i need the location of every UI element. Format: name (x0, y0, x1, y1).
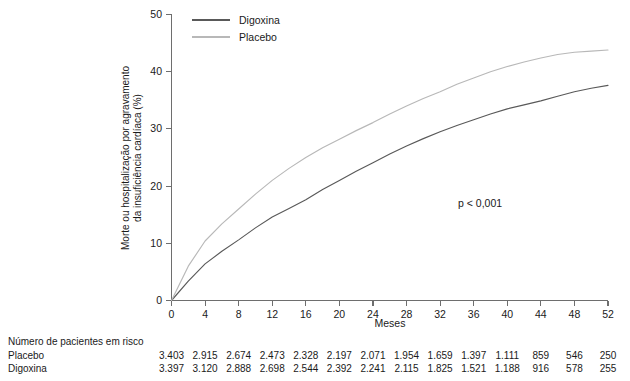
risk-table-cell: 1.397 (461, 350, 486, 361)
x-tick-label: 36 (468, 308, 480, 320)
x-axis-title: Meses (375, 317, 406, 329)
x-tick-label: 16 (300, 308, 312, 320)
risk-table-cell: 2.473 (260, 350, 285, 361)
risk-table-row: 3.4032.9152.6742.4732.3282.1972.0711.954… (159, 350, 617, 361)
legend-label-placebo: Placebo (239, 31, 277, 43)
series-line-digoxina (172, 85, 609, 300)
y-tick-label: 20 (150, 180, 162, 192)
y-tick-label: 0 (156, 294, 162, 306)
kaplan-meier-chart: 0 10 20 30 40 50 04812162024283236404448… (0, 0, 630, 381)
risk-table-cell: 3.403 (159, 350, 184, 361)
risk-table-cell: 916 (533, 363, 550, 374)
risk-table-cell: 2.544 (293, 363, 318, 374)
y-tick-label: 50 (150, 8, 162, 20)
chart-legend: Digoxina Placebo (192, 14, 280, 43)
x-tick-label: 12 (266, 308, 278, 320)
risk-table-cell: 2.115 (394, 363, 419, 374)
risk-table-cell: 2.888 (226, 363, 251, 374)
risk-table-cell: 1.825 (428, 363, 453, 374)
risk-table-row-label-placebo: Placebo (8, 350, 45, 361)
risk-table-cell: 2.674 (226, 350, 251, 361)
risk-table-cell: 2.698 (260, 363, 285, 374)
x-tick-label: 40 (501, 308, 513, 320)
risk-table-cell: 3.120 (193, 363, 218, 374)
x-tick-label: 52 (602, 308, 614, 320)
y-axis-tick-labels: 0 10 20 30 40 50 (150, 8, 162, 306)
p-value-annotation: p < 0,001 (458, 197, 502, 209)
y-tick-label: 40 (150, 65, 162, 77)
x-tick-label: 44 (535, 308, 547, 320)
risk-table-cell: 3.397 (159, 363, 184, 374)
legend-label-digoxina: Digoxina (239, 14, 280, 26)
risk-table-cell: 2.241 (360, 363, 385, 374)
y-axis-title: Morte ou hospitalização por agravamento … (120, 66, 143, 250)
risk-table-cell: 2.328 (293, 350, 318, 361)
x-tick-label: 0 (169, 308, 175, 320)
x-tick-label: 48 (569, 308, 581, 320)
y-axis-ticks (166, 15, 172, 301)
risk-table-row-label-digoxina: Digoxina (8, 363, 47, 374)
risk-table-cell: 250 (600, 350, 617, 361)
risk-table-cell: 1.954 (394, 350, 419, 361)
series-line-placebo (172, 50, 609, 301)
risk-table-row: 3.3973.1202.8882.6982.5442.3922.2412.115… (159, 363, 617, 374)
risk-table-cell: 1.659 (428, 350, 453, 361)
y-tick-label: 10 (150, 237, 162, 249)
y-axis-title-line1: Morte ou hospitalização por agravamento (120, 66, 131, 250)
risk-table-cell: 1.521 (461, 363, 486, 374)
risk-table-cell: 2.071 (360, 350, 385, 361)
risk-table-cell: 578 (566, 363, 583, 374)
risk-table-cell: 2.915 (193, 350, 218, 361)
risk-table-cell: 1.188 (495, 363, 520, 374)
x-tick-label: 32 (434, 308, 446, 320)
figure-container: 0 10 20 30 40 50 04812162024283236404448… (0, 0, 630, 381)
risk-table-cell: 2.197 (327, 350, 352, 361)
y-axis-title-line2: da insuficiência cardíaca (%) (132, 94, 143, 222)
risk-table-cell: 1.111 (495, 350, 519, 361)
risk-table-title: Número de pacientes em risco (8, 336, 144, 347)
y-tick-label: 30 (150, 122, 162, 134)
x-tick-label: 8 (236, 308, 242, 320)
x-tick-label: 20 (334, 308, 346, 320)
x-tick-label: 4 (202, 308, 208, 320)
risk-table-cell: 546 (566, 350, 583, 361)
x-axis-ticks (172, 301, 609, 307)
series-group (172, 50, 609, 301)
risk-table-cell: 2.392 (327, 363, 352, 374)
risk-table-cell: 859 (533, 350, 550, 361)
risk-table: Número de pacientes em risco Placebo Dig… (8, 336, 617, 374)
risk-table-cell: 255 (600, 363, 617, 374)
